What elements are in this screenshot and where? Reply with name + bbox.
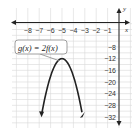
callout-leader-line xyxy=(40,54,59,61)
y-tick-label: −28 xyxy=(104,102,116,109)
y-tick-label: −32 xyxy=(104,114,116,121)
x-tick-label: −4 xyxy=(69,27,77,34)
x-axis-label: x xyxy=(124,26,129,34)
arrowhead-left xyxy=(39,111,44,117)
callout-text: g(x) = 2f(x) xyxy=(18,43,58,53)
x-tick-label: −2 xyxy=(92,27,100,34)
equation-callout: g(x) = 2f(x) xyxy=(15,40,67,61)
x-tick-label: −6 xyxy=(47,27,55,34)
x-tick-label: −3 xyxy=(81,27,89,34)
x-tick-label: −8 xyxy=(24,27,32,34)
y-tick-label: −20 xyxy=(104,79,116,86)
y-tick-label: −12 xyxy=(104,55,116,62)
y-axis-label: y xyxy=(122,5,127,13)
y-tick-labels: −8−12−16−20−24−28−32 xyxy=(104,44,116,121)
x-tick-label: −1 xyxy=(104,27,112,34)
x-tick-labels: −8−7−6−5−4−3−2−1 xyxy=(24,27,112,34)
x-tick-label: −5 xyxy=(58,27,66,34)
y-tick-label: −8 xyxy=(108,44,116,51)
x-tick-label: −7 xyxy=(35,27,43,34)
y-tick-label: −16 xyxy=(104,67,116,74)
function-graph: −8−7−6−5−4−3−2−1 −8−12−16−20−24−28−32 x … xyxy=(0,0,135,134)
y-tick-label: −24 xyxy=(104,90,116,97)
